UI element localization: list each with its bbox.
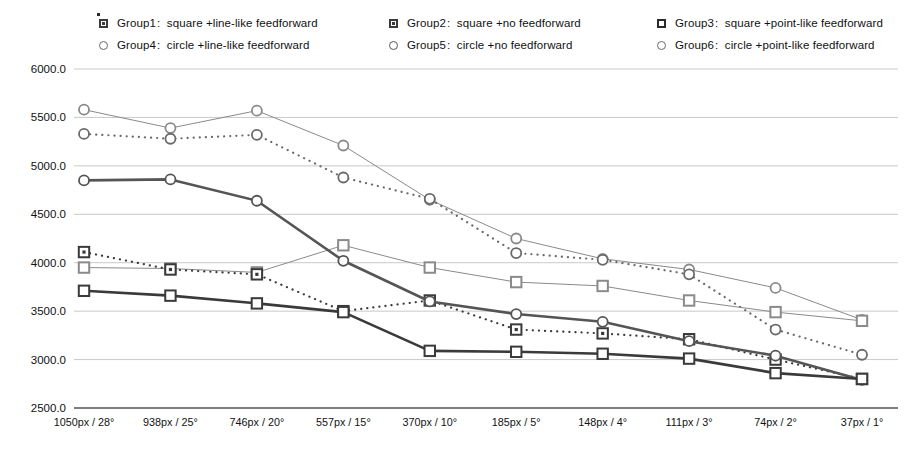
data-point-marker-circle xyxy=(425,296,435,306)
x-axis-tick-label: 557px / 15° xyxy=(316,416,371,428)
y-axis-tick-label: 4500.0 xyxy=(31,208,66,220)
data-point-marker-square xyxy=(338,240,348,250)
data-point-marker-circle xyxy=(252,196,262,206)
y-axis-tick-label: 5500.0 xyxy=(31,111,66,123)
data-point-marker-circle xyxy=(79,105,89,115)
series-group3 xyxy=(79,247,867,384)
data-point-marker-square xyxy=(684,295,694,305)
data-point-marker-circle xyxy=(511,234,521,244)
data-point-marker-circle xyxy=(425,194,435,204)
data-point-marker-core xyxy=(601,332,604,335)
data-point-marker-circle xyxy=(79,129,89,139)
data-point-marker-square xyxy=(770,368,780,378)
x-axis-tick-label: 746px / 20° xyxy=(230,416,285,428)
data-point-marker-circle xyxy=(165,134,175,144)
line-chart-canvas: 6000.05500.05000.04500.04000.03500.03000… xyxy=(0,0,914,457)
x-axis-tick-label: 1050px / 28° xyxy=(54,416,115,428)
y-axis-tick-label: 2500.0 xyxy=(31,402,66,414)
data-point-marker-circle xyxy=(338,141,348,151)
data-point-marker-circle xyxy=(771,283,781,293)
series-line-group5 xyxy=(84,179,862,379)
data-point-marker-circle xyxy=(338,172,348,182)
data-point-marker-square xyxy=(597,349,607,359)
series-group6 xyxy=(79,129,867,360)
data-point-marker-circle xyxy=(511,309,521,319)
y-axis-tick-label: 6000.0 xyxy=(31,63,66,75)
data-point-marker-circle xyxy=(165,174,175,184)
x-axis-tick-label: 37px / 1° xyxy=(841,416,884,428)
data-point-marker-circle xyxy=(684,269,694,279)
x-axis-tick-label: 370px / 10° xyxy=(402,416,457,428)
series-line-group2 xyxy=(84,291,862,379)
x-axis-tick-label: 185px / 5° xyxy=(492,416,541,428)
series-line-group6 xyxy=(84,134,862,355)
series-group2 xyxy=(79,286,867,385)
data-point-marker-circle xyxy=(857,350,867,360)
x-axis-tick-label: 74px / 2° xyxy=(754,416,797,428)
series-group1 xyxy=(79,240,867,326)
data-point-marker-circle xyxy=(598,317,608,327)
data-point-marker-circle xyxy=(252,106,262,116)
x-axis-tick-label: 111px / 3° xyxy=(666,416,713,428)
data-point-marker-circle xyxy=(511,248,521,258)
data-point-marker-square xyxy=(165,290,175,300)
data-point-marker-circle xyxy=(771,325,781,335)
data-point-marker-core xyxy=(515,328,518,331)
y-axis-tick-label: 3000.0 xyxy=(31,354,66,366)
data-point-marker-square xyxy=(425,262,435,272)
data-point-marker-circle xyxy=(684,336,694,346)
y-axis-tick-label: 4000.0 xyxy=(31,257,66,269)
data-point-marker-circle xyxy=(252,130,262,140)
data-point-marker-square xyxy=(684,353,694,363)
data-point-marker-core xyxy=(169,268,172,271)
y-axis-tick-label: 3500.0 xyxy=(31,305,66,317)
data-point-marker-circle xyxy=(771,351,781,361)
data-point-marker-square xyxy=(511,347,521,357)
data-point-marker-square xyxy=(252,298,262,308)
x-axis-tick-label: 148px / 4° xyxy=(578,416,627,428)
series-group5 xyxy=(79,174,867,384)
data-point-marker-circle xyxy=(79,175,89,185)
data-point-marker-circle xyxy=(165,123,175,133)
data-point-marker-core xyxy=(82,250,85,253)
data-point-marker-square xyxy=(770,307,780,317)
y-axis-tick-label: 5000.0 xyxy=(31,160,66,172)
data-point-marker-circle xyxy=(338,256,348,266)
x-axis-tick-label: 938px / 25° xyxy=(143,416,198,428)
data-point-marker-square xyxy=(425,346,435,356)
data-point-marker-square xyxy=(857,316,867,326)
chart-page: Group1: square +line-like feedforward Gr… xyxy=(0,0,914,457)
data-point-marker-square xyxy=(511,277,521,287)
data-point-marker-square xyxy=(857,374,867,384)
data-point-marker-square xyxy=(79,286,89,296)
data-point-marker-square xyxy=(597,281,607,291)
data-point-marker-circle xyxy=(598,255,608,265)
data-point-marker-square xyxy=(79,262,89,272)
data-point-marker-square xyxy=(338,307,348,317)
data-point-marker-core xyxy=(255,273,258,276)
